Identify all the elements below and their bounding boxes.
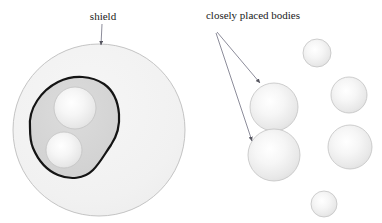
shield-body-upper bbox=[54, 87, 96, 129]
body-upper-large bbox=[250, 83, 298, 131]
body-right-lower bbox=[328, 125, 372, 169]
body-top-small bbox=[303, 39, 331, 67]
body-right-mid bbox=[331, 77, 367, 113]
shield-diagram bbox=[13, 44, 185, 216]
body-bottom-small bbox=[311, 191, 337, 217]
shield-body-lower bbox=[46, 132, 82, 168]
shield-label: shield bbox=[90, 10, 117, 22]
body-lower-large bbox=[248, 129, 300, 181]
closely-placed-bodies-label: closely placed bodies bbox=[206, 9, 300, 21]
figure-canvas: shield closely placed bodies bbox=[0, 0, 382, 223]
